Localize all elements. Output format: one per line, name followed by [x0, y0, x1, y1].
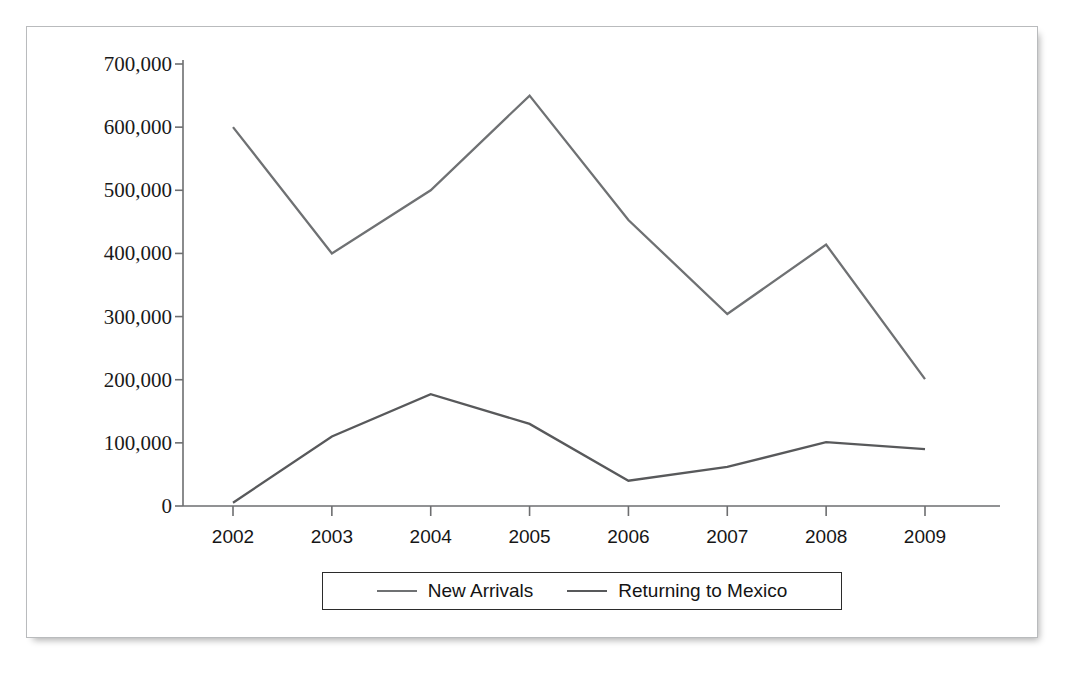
y-tick-label: 0: [162, 494, 173, 518]
x-tick-label: 2006: [607, 526, 649, 547]
x-tick-label: 2008: [805, 526, 847, 547]
legend-label-returning-to-mexico: Returning to Mexico: [618, 580, 787, 602]
legend-label-new-arrivals: New Arrivals: [428, 580, 534, 602]
y-tick-label: 100,000: [104, 431, 172, 455]
y-axis-tick-marks: [175, 64, 183, 506]
legend-entry-new-arrivals: New Arrivals: [377, 580, 534, 602]
x-tick-label: 2007: [706, 526, 748, 547]
y-tick-label: 500,000: [104, 178, 172, 202]
x-tick-label: 2004: [410, 526, 453, 547]
chart-page: 0100,000200,000300,000400,000500,000600,…: [0, 0, 1065, 673]
x-tick-label: 2005: [508, 526, 550, 547]
y-tick-label: 400,000: [104, 241, 172, 265]
x-tick-label: 2009: [904, 526, 946, 547]
x-axis-tick-marks: [233, 506, 925, 516]
series-line-returning-to-mexico: [233, 394, 925, 503]
legend-entry-returning-to-mexico: Returning to Mexico: [567, 580, 787, 602]
x-tick-label: 2003: [311, 526, 353, 547]
y-tick-label: 200,000: [104, 368, 172, 392]
y-tick-label: 600,000: [104, 115, 172, 139]
x-axis-tick-labels: 20022003200420052006200720082009: [212, 526, 946, 547]
x-tick-label: 2002: [212, 526, 254, 547]
legend-swatch-returning-to-mexico: [567, 590, 607, 592]
series-line-new-arrivals: [233, 96, 925, 380]
chart-legend: New Arrivals Returning to Mexico: [322, 572, 842, 610]
y-tick-label: 700,000: [104, 52, 172, 76]
series-polylines: [233, 96, 925, 503]
y-tick-label: 300,000: [104, 305, 172, 329]
y-axis-tick-labels: 0100,000200,000300,000400,000500,000600,…: [104, 52, 172, 518]
legend-swatch-new-arrivals: [377, 590, 417, 592]
